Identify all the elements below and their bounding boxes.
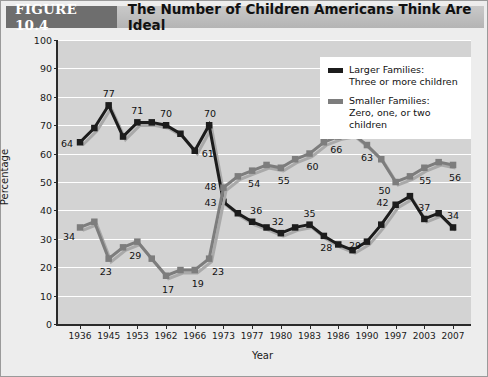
data-point-marker — [392, 179, 399, 186]
data-point-marker — [335, 241, 342, 248]
data-point-marker — [407, 173, 414, 180]
data-point-marker — [364, 238, 371, 245]
x-tick-mark — [80, 324, 81, 329]
data-point-marker — [134, 238, 141, 245]
data-point-marker — [435, 159, 442, 166]
x-tick-mark — [166, 324, 167, 329]
x-axis-title: Year — [56, 350, 469, 361]
data-point-marker — [263, 162, 270, 169]
data-label: 17 — [162, 283, 174, 294]
x-tick-label: 1990 — [355, 331, 378, 341]
data-label: 34 — [63, 231, 75, 242]
data-label: 34 — [447, 210, 459, 221]
x-tick-mark — [195, 324, 196, 329]
legend-swatch-larger-families — [328, 68, 343, 73]
data-label: 42 — [377, 196, 389, 207]
x-tick-label: 1973 — [212, 331, 235, 341]
data-point-marker — [249, 219, 256, 226]
data-point-marker — [321, 139, 328, 146]
data-label: 32 — [272, 216, 284, 227]
data-point-marker — [450, 224, 457, 231]
x-tick-mark — [396, 324, 397, 329]
x-tick-label: 1997 — [384, 331, 407, 341]
data-point-marker — [206, 122, 213, 129]
x-tick-mark — [310, 324, 311, 329]
chart-legend: Larger Families: Three or more children … — [320, 57, 471, 139]
x-tick-mark — [223, 324, 224, 329]
data-point-marker — [220, 184, 227, 191]
y-tick-label: 40 — [8, 205, 52, 216]
data-point-marker — [421, 216, 428, 223]
data-point-marker — [235, 210, 242, 217]
data-label: 37 — [418, 201, 430, 212]
data-point-marker — [306, 150, 313, 157]
x-tick-label: 1953 — [126, 331, 149, 341]
legend-item-smaller-families: Smaller Families: Zero, one, or two chil… — [328, 95, 462, 131]
data-label: 54 — [248, 177, 260, 188]
data-point-marker — [149, 119, 156, 126]
y-tick-label: 20 — [8, 262, 52, 273]
data-label: 60 — [306, 160, 318, 171]
data-label: 63 — [361, 152, 373, 163]
y-tick-label: 100 — [8, 35, 52, 46]
figure-header: FIGURE 10.4 The Number of Children Ameri… — [6, 6, 484, 28]
data-label: 19 — [192, 278, 204, 289]
data-label: 55 — [278, 174, 290, 185]
legend-name-smaller: Smaller Families: — [349, 95, 430, 106]
data-point-marker — [292, 224, 299, 231]
x-tick-mark — [109, 324, 110, 329]
data-point-marker — [163, 122, 170, 129]
y-tick-label: 90 — [8, 63, 52, 74]
data-point-marker — [364, 142, 371, 149]
data-label: 66 — [330, 143, 342, 154]
x-tick-label: 1977 — [241, 331, 264, 341]
data-label: 70 — [204, 108, 216, 119]
data-point-marker — [149, 255, 156, 262]
data-point-marker — [192, 267, 199, 274]
x-tick-mark — [338, 324, 339, 329]
data-point-marker — [91, 125, 98, 132]
data-point-marker — [206, 255, 213, 262]
data-point-marker — [120, 133, 127, 140]
data-label: 29 — [129, 249, 141, 260]
x-tick-label: 1983 — [298, 331, 321, 341]
x-tick-label: 1936 — [69, 331, 92, 341]
data-point-marker — [278, 165, 285, 172]
data-point-marker — [77, 224, 84, 231]
data-point-marker — [177, 267, 184, 274]
x-tick-label: 1986 — [327, 331, 350, 341]
x-tick-label: 2007 — [442, 331, 465, 341]
data-label: 23 — [100, 265, 112, 276]
data-point-marker — [235, 173, 242, 180]
data-label: 71 — [131, 105, 143, 116]
data-point-marker — [306, 221, 313, 228]
figure-title: The Number of Children Americans Think A… — [117, 1, 484, 33]
data-point-marker — [392, 202, 399, 209]
data-label: 61 — [202, 147, 214, 158]
data-label: 35 — [303, 207, 315, 218]
data-label: 43 — [204, 196, 216, 207]
data-label: 55 — [419, 174, 431, 185]
data-point-marker — [120, 244, 127, 251]
y-tick-label: 70 — [8, 120, 52, 131]
data-point-marker — [321, 233, 328, 240]
data-point-marker — [177, 131, 184, 138]
data-point-marker — [163, 273, 170, 280]
x-tick-mark — [252, 324, 253, 329]
y-tick-label: 50 — [8, 177, 52, 188]
chart-area: 0102030405060708090100 19361945195319621… — [6, 31, 484, 373]
x-tick-label: 1966 — [183, 331, 206, 341]
x-tick-mark — [453, 324, 454, 329]
legend-detail-smaller: Zero, one, or two children — [349, 107, 431, 130]
data-point-marker — [105, 255, 112, 262]
figure-container: FIGURE 10.4 The Number of Children Ameri… — [0, 0, 488, 377]
data-point-marker — [249, 167, 256, 174]
legend-detail-larger: Three or more children — [349, 76, 458, 87]
data-label: 77 — [103, 88, 115, 99]
legend-item-larger-families: Larger Families: Three or more children — [328, 64, 462, 88]
figure-number-tag: FIGURE 10.4 — [6, 6, 117, 28]
data-point-marker — [407, 193, 414, 200]
data-label: 28 — [320, 242, 332, 253]
plot-region: 0102030405060708090100 19361945195319621… — [56, 40, 471, 326]
x-tick-mark — [424, 324, 425, 329]
